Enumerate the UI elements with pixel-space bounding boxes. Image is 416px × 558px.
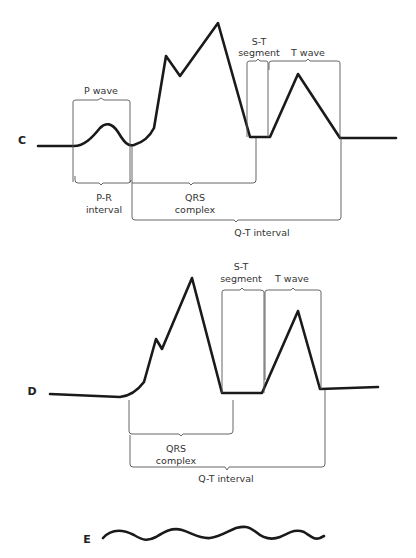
ecg-trace-e [103, 527, 324, 540]
panel-letter-d: D [27, 385, 36, 398]
t-wave-label-d: T wave [274, 273, 309, 284]
st-segment-bracket-d [222, 288, 264, 393]
qrs-complex-bracket-c [132, 138, 256, 185]
qrs-complex-label-c-2: complex [175, 204, 216, 215]
panel-letter-c: C [18, 134, 26, 147]
pr-interval-label-1: P-R [96, 192, 112, 203]
st-segment-label-c-1: S-T [252, 36, 267, 47]
p-wave-bracket [73, 98, 130, 182]
qt-interval-bracket-c [132, 138, 341, 222]
qrs-complex-label-d-1: QRS [166, 443, 186, 454]
t-wave-bracket-c [269, 59, 340, 138]
st-segment-label-d-1: S-T [234, 261, 249, 272]
ecg-panel-c: C P wave S-T segment T wave P-R interval… [18, 23, 396, 238]
st-segment-label-c-2: segment [238, 47, 280, 58]
qrs-complex-bracket-d [129, 400, 233, 436]
st-segment-bracket-c [247, 59, 268, 137]
ecg-panel-d: D S-T segment T wave QRS complex Q-T int… [27, 261, 378, 484]
qrs-complex-label-c-1: QRS [185, 192, 205, 203]
pr-interval-bracket [75, 176, 131, 185]
ecg-panel-e: E [83, 527, 324, 546]
panel-letter-e: E [83, 533, 91, 546]
qt-interval-label-c: Q-T interval [234, 227, 289, 238]
qrs-complex-label-d-2: complex [156, 455, 197, 466]
t-wave-bracket-d [265, 288, 321, 389]
qt-interval-label-d: Q-T interval [198, 473, 253, 484]
t-wave-label-c: T wave [290, 47, 325, 58]
ecg-trace-d [50, 278, 378, 397]
st-segment-label-d-2: segment [220, 273, 262, 284]
p-wave-label: P wave [84, 85, 118, 96]
ecg-diagram: C P wave S-T segment T wave P-R interval… [0, 0, 416, 558]
pr-interval-label-2: interval [86, 204, 122, 215]
